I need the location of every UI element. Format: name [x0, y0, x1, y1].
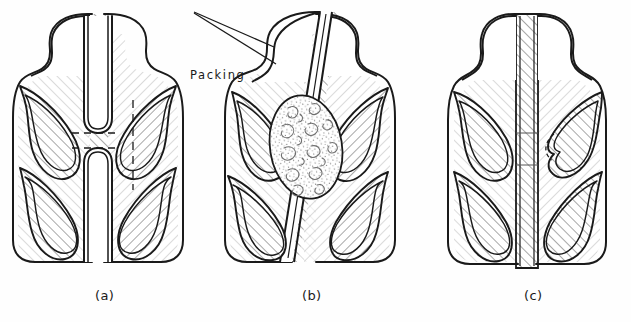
packing-label: Packing — [190, 68, 245, 82]
panel-b — [194, 12, 395, 262]
panel-caption-a: (a) — [95, 288, 114, 303]
panel-a-slot-upper — [84, 16, 112, 133]
panel-c-center-web — [516, 14, 538, 268]
figure-canvas — [0, 0, 631, 322]
panel-caption-c: (c) — [524, 288, 543, 303]
panel-caption-b: (b) — [302, 288, 322, 303]
panel-a — [13, 14, 183, 262]
panel-a-slot-lower — [84, 148, 112, 262]
panel-c — [448, 14, 606, 268]
panel-a-top-cavity — [31, 16, 90, 76]
packing-leader — [194, 12, 276, 64]
